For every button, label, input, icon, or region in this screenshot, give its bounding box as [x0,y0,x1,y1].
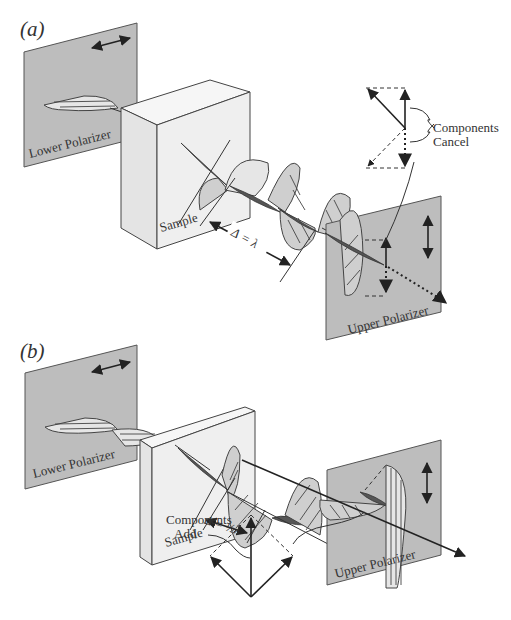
upper-polarizer-a: Upper Polarizer [325,196,446,340]
components-add-label-2: Add [174,526,197,541]
upper-polarizer-b: Upper Polarizer [242,440,465,588]
panel-a: (a) Lower Polarizer Sample [20,17,499,340]
sample-a: Sample [121,80,250,249]
components-cancel-label-1: Components [433,120,499,135]
panel-a-label: (a) [20,17,45,41]
panel-b: (b) Lower Polarizer Sample [20,339,465,597]
components-cancel-label-2: Cancel [433,134,469,149]
panel-b-label: (b) [20,339,45,363]
components-add-label-1: Components [166,512,232,527]
polarization-diagram: (a) Lower Polarizer Sample [0,0,511,620]
